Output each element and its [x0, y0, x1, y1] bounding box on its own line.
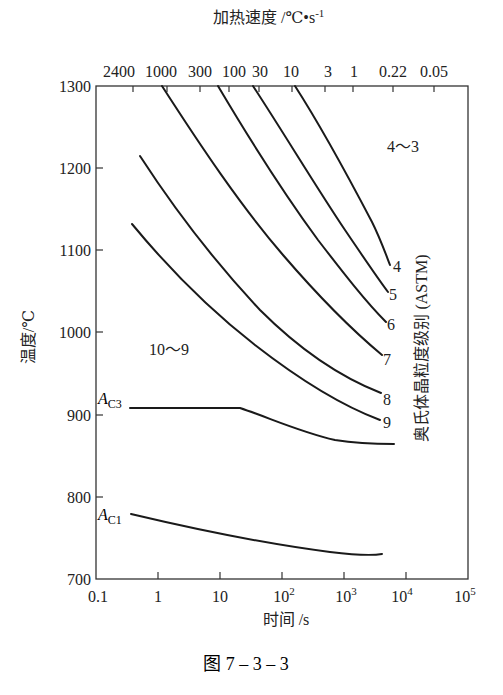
svg-text:1: 1	[350, 63, 358, 80]
curve-labels: 4 5 6 7 8 9	[383, 258, 401, 431]
svg-text:1100: 1100	[60, 242, 91, 259]
svg-text:6: 6	[387, 316, 395, 333]
curve-ac1	[131, 514, 382, 555]
chart-canvas: 加热速度 /℃•s-1 2400 1000 300 100 30 10 3 1 …	[0, 0, 503, 695]
figure-caption: 图 7 – 3 – 3	[203, 654, 289, 674]
svg-text:103: 103	[335, 585, 357, 605]
svg-text:1300: 1300	[59, 78, 91, 95]
curve-ac3	[130, 408, 394, 444]
curve-9	[132, 224, 380, 420]
top-tick-labels: 2400 1000 300 100 30 10 3 1 0.22 0.05	[103, 63, 448, 80]
svg-text:1000: 1000	[145, 63, 177, 80]
curve-5	[253, 86, 388, 292]
curve-7	[162, 86, 382, 355]
right-axis-title: 奥氏体晶粒度级别 (ASTM)	[413, 254, 431, 441]
x-axis-ticks	[158, 572, 406, 579]
svg-text:1000: 1000	[59, 324, 91, 341]
svg-text:1200: 1200	[59, 160, 91, 177]
svg-text:1: 1	[154, 588, 162, 605]
svg-text:104: 104	[391, 585, 413, 605]
svg-text:105: 105	[454, 585, 476, 605]
region-label-10-9: 10～9	[149, 341, 189, 358]
svg-text:0.05: 0.05	[420, 63, 448, 80]
svg-text:800: 800	[67, 489, 91, 506]
svg-text:10: 10	[283, 63, 299, 80]
top-axis-title: 加热速度 /℃•s-1	[213, 7, 324, 26]
svg-text:3: 3	[324, 63, 332, 80]
ac3-label: AC3	[97, 390, 122, 411]
svg-text:102: 102	[273, 585, 295, 605]
svg-text:300: 300	[188, 63, 212, 80]
svg-text:5: 5	[389, 286, 397, 303]
top-axis-ticks	[133, 86, 434, 92]
grain-size-curves	[130, 86, 394, 555]
svg-text:9: 9	[383, 414, 391, 431]
svg-text:8: 8	[383, 391, 391, 408]
svg-text:7: 7	[383, 351, 391, 368]
svg-text:4: 4	[393, 258, 401, 275]
y-tick-labels: 1300 1200 1100 1000 900 800 700	[59, 78, 91, 588]
svg-text:10: 10	[212, 588, 228, 605]
svg-text:0.22: 0.22	[379, 63, 407, 80]
y-axis-ticks	[96, 168, 103, 497]
svg-text:100: 100	[222, 63, 246, 80]
svg-text:900: 900	[67, 407, 91, 424]
svg-text:0.1: 0.1	[88, 588, 108, 605]
svg-text:700: 700	[67, 571, 91, 588]
y-axis-title: 温度/℃	[20, 310, 37, 364]
x-tick-labels: 0.1 1 10 102 103 104 105	[88, 585, 476, 605]
ac1-label: AC1	[97, 506, 122, 527]
region-label-4-3: 4～3	[387, 138, 419, 155]
x-axis-title: 时间 /s	[263, 611, 310, 628]
svg-text:2400: 2400	[103, 63, 135, 80]
svg-text:30: 30	[252, 63, 268, 80]
